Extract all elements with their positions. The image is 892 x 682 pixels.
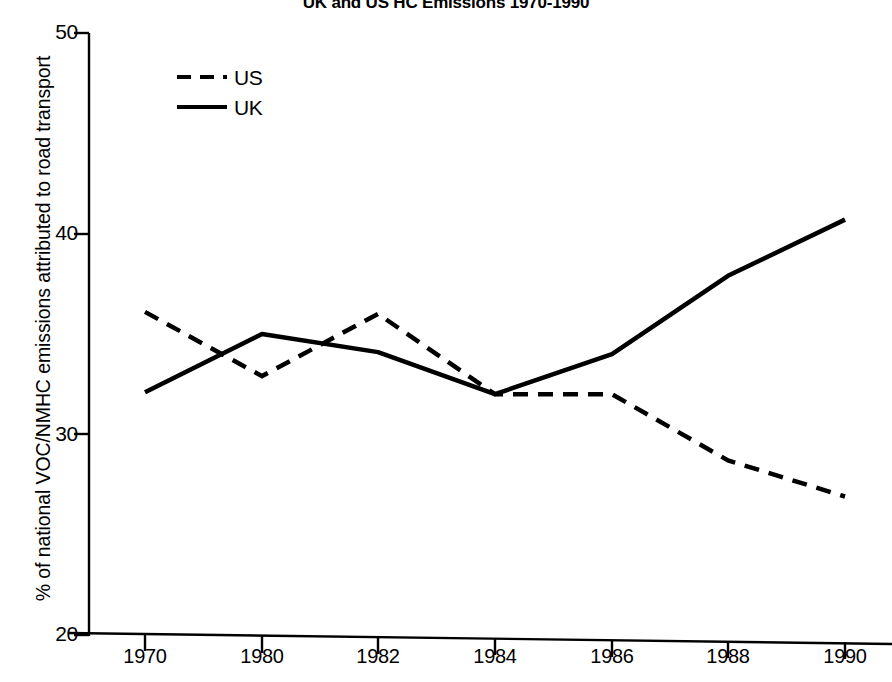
series-line-uk [145, 220, 845, 395]
x-axis-line [68, 633, 892, 644]
y-axis-ticks [74, 33, 89, 635]
plot-area [0, 0, 892, 682]
chart-figure: UK and US HC Emissions 1970-1990 % of na… [0, 0, 892, 682]
